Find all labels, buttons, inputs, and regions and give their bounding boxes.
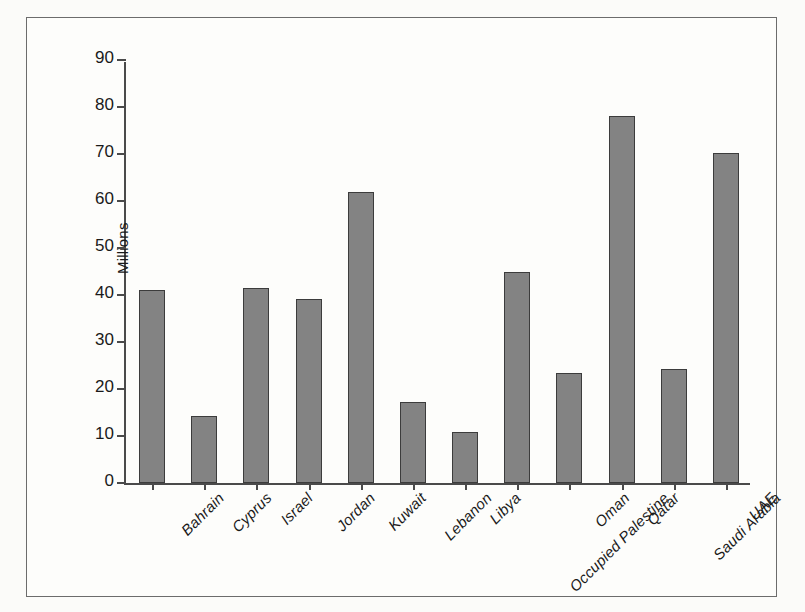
bar[interactable] [504,272,530,484]
y-axis-tick-mark [117,247,126,249]
y-axis-tick-mark [117,153,126,155]
x-axis-tick-label: Israel [278,489,317,528]
bar[interactable] [556,373,582,483]
y-axis-tick-label: 40 [95,283,114,303]
x-axis-tick-label-text: Kuwait [384,489,429,534]
y-axis-tick-mark [117,341,126,343]
bar-slot [178,62,230,483]
x-axis-tick-label: Jordan [332,489,377,534]
bar-slot [596,62,648,483]
x-axis-tick-label: Kuwait [384,489,429,534]
bar-slot [543,62,595,483]
x-axis-tick-label-text: Jordan [332,489,377,534]
x-axis-tick-label: Libya [486,489,524,527]
x-axis-tick-label-text: Cyprus [229,489,275,535]
bar[interactable] [609,116,635,483]
y-axis-tick-mark [117,294,126,296]
bar-slot [439,62,491,483]
y-axis-tick-label: 70 [95,142,114,162]
y-axis-tick-mark [117,200,126,202]
figure-frame: Millions 0102030405060708090 BahrainCypr… [26,17,777,597]
y-axis-tick-label: 10 [95,424,114,444]
y-axis-tick-label: 0 [105,471,114,491]
bar-slot [283,62,335,483]
bar-slot [491,62,543,483]
bar-slot [126,62,178,483]
y-axis-tick-label: 60 [95,189,114,209]
bar[interactable] [243,288,269,483]
bar[interactable] [139,290,165,483]
bar-slot [230,62,282,483]
y-axis-tick-mark [117,482,126,484]
x-axis-tick-label-text: Israel [278,489,317,528]
bar-slot [700,62,752,483]
x-axis-tick-label: Bahrain [178,489,228,539]
plot-area: Millions 0102030405060708090 [124,62,750,485]
y-axis-tick-label: 90 [95,48,114,68]
y-axis-tick-label: 20 [95,377,114,397]
bar[interactable] [191,416,217,483]
bar-slot [387,62,439,483]
bar[interactable] [296,299,322,483]
bar[interactable] [348,192,374,483]
y-axis-tick-label: 80 [95,95,114,115]
x-axis-tick-label-text: Libya [486,489,524,527]
bar-slot [648,62,700,483]
y-axis-tick-mark [117,106,126,108]
x-axis-tick-label: Cyprus [229,489,275,535]
bar[interactable] [661,369,687,483]
y-axis-tick-label: 30 [95,330,114,350]
chart-page: Millions 0102030405060708090 BahrainCypr… [0,0,805,612]
y-axis-tick-mark [117,435,126,437]
x-axis-tick-label-text: Bahrain [178,489,228,539]
bar[interactable] [400,402,426,483]
y-axis-tick-mark [117,388,126,390]
bar[interactable] [452,432,478,483]
bar[interactable] [713,153,739,483]
bar-series [126,62,750,483]
y-axis-tick-label: 50 [95,236,114,256]
y-axis-tick-mark [117,59,126,61]
x-axis-labels: BahrainCyprusIsraelJordanKuwaitLebanonLi… [124,489,750,609]
bar-slot [335,62,387,483]
